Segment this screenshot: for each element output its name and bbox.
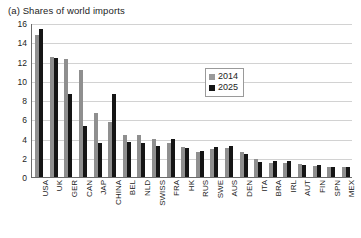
x-axis-tick-label-rus: RUS	[202, 180, 210, 197]
bar-den-2025	[244, 154, 248, 177]
x-axis-tick-label-swiss: SWISS	[159, 180, 167, 206]
chart-plot-wrapper: 1614121086420 USAUKGERCANJAPCHINABELNLDS…	[0, 0, 361, 238]
x-axis-tick-label-usa: USA	[42, 180, 50, 196]
y-axis-tick-label: 0	[7, 174, 27, 182]
bar-group	[193, 24, 208, 177]
x-axis-tick-label-ger: GER	[71, 180, 79, 197]
bar-group	[207, 24, 222, 177]
x-axis-tick-label-fra: FRA	[173, 180, 181, 196]
x-axis-tick-label-bel: BEL	[129, 180, 137, 195]
y-axis-tick-label: 6	[7, 116, 27, 124]
bar-group	[178, 24, 193, 177]
y-axis-tick-label: 8	[7, 97, 27, 105]
bar-group	[222, 24, 237, 177]
bar-nld-2025	[141, 143, 145, 177]
legend-label-2014: 2014	[218, 72, 238, 81]
x-axis-tick-label-jap: JAP	[100, 180, 108, 195]
bar-bel-2025	[127, 142, 131, 177]
y-axis-tick-labels: 1614121086420	[3, 24, 27, 178]
legend-item-2014: 2014	[209, 71, 238, 82]
x-axis-tick-label-uk: UK	[56, 180, 64, 191]
bar-group	[265, 24, 280, 177]
x-axis-tick-label-irl: IRL	[290, 180, 298, 192]
y-axis-tick-label: 4	[7, 136, 27, 144]
x-axis-tick-label-fin: FIN	[319, 180, 327, 193]
bar-group	[324, 24, 339, 177]
x-axis-tick-label-spn: SPN	[334, 180, 342, 196]
bar-group	[309, 24, 324, 177]
x-axis-tick-label-den: DEN	[246, 180, 254, 197]
bar-group	[90, 24, 105, 177]
bar-usa-2025	[39, 29, 43, 177]
bar-group	[32, 24, 47, 177]
x-axis-tick-labels: USAUKGERCANJAPCHINABELNLDSWISSFRAHKRUSSW…	[31, 180, 352, 238]
bars-layer	[32, 24, 352, 177]
bar-group	[105, 24, 120, 177]
bar-group	[76, 24, 91, 177]
bar-mex-2025	[346, 167, 350, 177]
bar-fin-2025	[317, 165, 321, 177]
bar-group	[251, 24, 266, 177]
bar-aus-2025	[229, 146, 233, 177]
x-axis-tick-label-can: CAN	[86, 180, 94, 197]
x-axis-tick-label-mex: MEX	[348, 180, 356, 197]
y-axis-tick-label: 16	[7, 20, 27, 28]
x-axis-tick-label-bra: BRA	[275, 180, 283, 196]
x-axis-tick-label-china: CHINA	[115, 180, 123, 205]
x-axis-tick-label-swe: SWE	[217, 180, 225, 198]
bar-group	[338, 24, 353, 177]
bar-china-2025	[112, 94, 116, 177]
chart-legend: 2014 2025	[205, 68, 244, 97]
bar-can-2025	[83, 126, 87, 177]
legend-label-2025: 2025	[218, 83, 238, 92]
x-axis-tick-label-aut: AUT	[304, 180, 312, 196]
bar-group	[134, 24, 149, 177]
bar-group	[280, 24, 295, 177]
y-axis-tick-label: 14	[7, 39, 27, 47]
bar-hk-2025	[185, 148, 189, 177]
x-axis-tick-label-aus: AUS	[231, 180, 239, 196]
y-axis-tick-label: 10	[7, 78, 27, 86]
legend-swatch-2025	[209, 85, 215, 91]
bar-group	[236, 24, 251, 177]
bar-group	[47, 24, 62, 177]
plot-area	[31, 24, 352, 178]
bar-bra-2025	[273, 161, 277, 177]
x-axis-tick-label-hk: HK	[188, 180, 196, 191]
bar-rus-2025	[200, 151, 204, 177]
bar-aut-2025	[302, 165, 306, 178]
bar-spn-2025	[331, 167, 335, 177]
bar-irl-2025	[287, 161, 291, 177]
y-axis-tick-label: 12	[7, 59, 27, 67]
bar-group	[149, 24, 164, 177]
y-axis-tick-label: 2	[7, 155, 27, 163]
bar-jap-2025	[98, 143, 102, 177]
bar-group	[61, 24, 76, 177]
bar-ger-2025	[68, 94, 72, 177]
x-axis-tick-label-nld: NLD	[144, 180, 152, 196]
bar-ita-2025	[258, 162, 262, 177]
x-axis-tick-label-ita: ITA	[261, 180, 269, 192]
bar-fra-2025	[171, 139, 175, 177]
bar-group	[163, 24, 178, 177]
bar-group	[120, 24, 135, 177]
legend-swatch-2014	[209, 74, 215, 80]
bar-swe-2025	[214, 147, 218, 177]
bar-group	[295, 24, 310, 177]
bar-uk-2025	[54, 58, 58, 177]
bar-swiss-2025	[156, 146, 160, 177]
legend-item-2025: 2025	[209, 82, 238, 93]
